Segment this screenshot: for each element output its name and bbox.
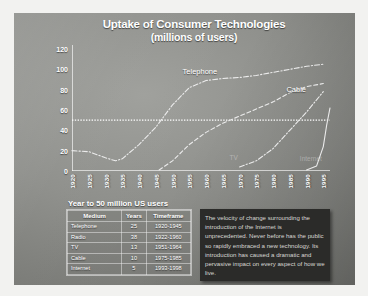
x-tick-1920: 1920 — [69, 174, 76, 189]
table-column-header-timeframe: Timeframe — [146, 211, 190, 222]
x-tick-1975: 1975 — [253, 174, 260, 189]
x-tick-1980: 1980 — [270, 174, 277, 189]
callout-box: The velocity of change surrounding the i… — [200, 209, 330, 281]
x-tick-1940: 1940 — [136, 174, 143, 189]
x-tick-1935: 1935 — [119, 174, 126, 189]
slide-title-line-2: (millions of users) — [60, 31, 328, 43]
table-caption: Year to 50 million US users — [68, 199, 168, 208]
x-tick-1950: 1950 — [169, 174, 176, 189]
series-label-internet: Internet — [300, 155, 322, 162]
y-tick-60: 60 — [60, 107, 68, 114]
x-tick-1985: 1985 — [286, 174, 293, 189]
y-tick-0: 0 — [64, 168, 68, 175]
table-body: Telephone251920-1945Radio381922-1960TV13… — [68, 222, 191, 275]
table-cell-years: 5 — [122, 264, 147, 275]
x-tick-1960: 1960 — [203, 174, 210, 189]
x-tick-1995: 1995 — [320, 174, 327, 189]
series-label-telephone: Telephone — [183, 67, 218, 76]
table-row: Radio381922-1960 — [68, 232, 191, 243]
x-tick-1930: 1930 — [102, 174, 109, 189]
table-cell-timeframe: 1920-1945 — [146, 222, 190, 233]
y-tick-100: 100 — [56, 66, 68, 73]
callout-text: The velocity of change surrounding the i… — [205, 213, 325, 277]
table-cell-years: 25 — [122, 222, 147, 233]
table-cell-medium: Radio — [68, 232, 122, 243]
x-tick-1965: 1965 — [219, 174, 226, 189]
table-cell-timeframe: 1993-1998 — [146, 264, 190, 275]
series-line-tv — [159, 84, 323, 170]
y-tick-40: 40 — [60, 127, 68, 134]
y-tick-80: 80 — [60, 86, 68, 93]
table-cell-timeframe: 1922-1960 — [146, 232, 190, 243]
table-header: MediumYearsTimeframe — [68, 211, 191, 222]
table-cell-medium: Internet — [68, 264, 122, 275]
table-cell-medium: Cable — [68, 253, 122, 264]
table-column-header-medium: Medium — [68, 211, 122, 222]
table-row: Cable101975-1985 — [68, 253, 191, 264]
table-header-row: MediumYearsTimeframe — [68, 211, 191, 222]
series-line-telephone — [72, 64, 323, 161]
x-tick-1955: 1955 — [186, 174, 193, 189]
x-tick-1925: 1925 — [85, 174, 92, 189]
presentation-slide: Uptake of Consumer Technologies (million… — [14, 13, 355, 285]
table-cell-years: 38 — [122, 232, 147, 243]
table-cell-years: 13 — [122, 243, 147, 254]
table-cell-medium: TV — [68, 243, 122, 254]
series-label-tv: TV — [229, 154, 237, 161]
line-chart: 020406080100120 192019251930193519401945… — [40, 43, 340, 178]
adoption-table: MediumYearsTimeframe Telephone251920-194… — [67, 210, 191, 275]
table-row: Telephone251920-1945 — [68, 222, 191, 233]
table-row: TV131951-1964 — [68, 243, 191, 254]
series-label-cable: Cable — [286, 85, 306, 94]
x-tick-1990: 1990 — [303, 174, 310, 189]
photo-frame: Uptake of Consumer Technologies (million… — [0, 0, 368, 296]
table-row: Internet51993-1998 — [68, 264, 191, 275]
table-cell-years: 10 — [122, 253, 147, 264]
x-tick-1945: 1945 — [152, 174, 159, 189]
table-cell-timeframe: 1975-1985 — [146, 253, 190, 264]
table-cell-timeframe: 1951-1964 — [146, 243, 190, 254]
table-cell-medium: Telephone — [68, 222, 122, 233]
chart-plot-area: 020406080100120 192019251930193519401945… — [72, 49, 330, 171]
slide-title: Uptake of Consumer Technologies (million… — [60, 18, 328, 43]
table-column-header-years: Years — [122, 211, 147, 222]
x-tick-1970: 1970 — [236, 174, 243, 189]
y-tick-120: 120 — [56, 46, 68, 53]
y-tick-20: 20 — [60, 147, 68, 154]
slide-title-line-1: Uptake of Consumer Technologies — [60, 18, 328, 31]
